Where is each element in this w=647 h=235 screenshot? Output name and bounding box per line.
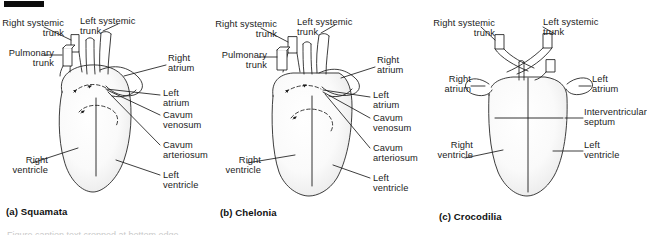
label-left-atrium: Left atrium [163,88,209,109]
label-left-atrium: Left atrium [592,74,636,95]
label-pulmonary-trunk: Pulmonary trunk [2,48,54,69]
label-right-ventricle: Right ventricle [429,140,473,161]
label-cavum-venosum: Cavum venosum [163,110,215,131]
label-left-systemic-trunk: Left systemic trunk [297,17,357,38]
label-right-systemic-trunk: Right systemic trunk [2,18,64,39]
label-cavum-venosum: Cavum venosum [373,113,425,134]
cropped-caption-line: Figure caption text cropped at bottom ed… [7,230,337,235]
label-right-ventricle: Right ventricle [2,155,48,176]
label-left-ventricle: Left ventricle [373,173,421,194]
label-right-atrium: Right atrium [377,55,423,76]
label-right-atrium: Right atrium [429,74,471,95]
label-right-systemic-trunk: Right systemic trunk [429,18,495,39]
label-left-ventricle: Left ventricle [163,170,211,191]
label-right-ventricle: Right ventricle [215,155,261,176]
label-pulmonary-trunk: Pulmonary trunk [215,50,267,71]
panel-chelonia: Right systemic trunk Pulmonary trunk Lef… [213,0,428,235]
label-right-atrium: Right atrium [168,53,214,74]
label-left-ventricle: Left ventricle [584,140,630,161]
label-left-systemic-trunk: Left systemic trunk [80,16,140,37]
label-right-systemic-trunk: Right systemic trunk [215,19,277,40]
label-cavum-arteriosum: Cavum arteriosum [373,143,427,164]
panel-caption-b: (b) Chelonia [220,207,277,218]
label-left-systemic-trunk: Left systemic trunk [543,17,605,38]
panel-caption-c: (c) Crocodilia [439,211,502,222]
panel-squamata: Right systemic trunk Pulmonary trunk Lef… [0,0,215,235]
label-left-atrium: Left atrium [373,90,419,111]
label-cavum-arteriosum: Cavum arteriosum [163,140,217,161]
panel-caption-a: (a) Squamata [6,206,67,217]
panel-crocodilia: Right systemic trunk Left systemic trunk… [427,0,643,235]
label-interventricular-septum: Interventricular septum [584,107,646,128]
